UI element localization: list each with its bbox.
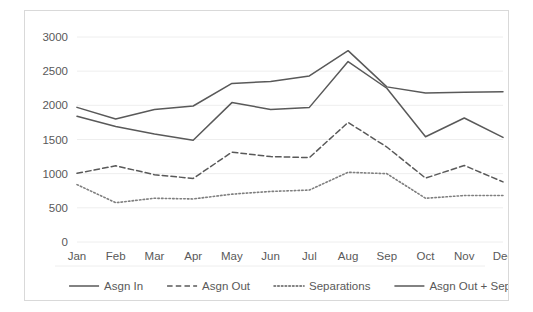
legend-item-label: Asgn Out bbox=[202, 280, 251, 292]
x-axis-tick-label: Jan bbox=[68, 250, 87, 262]
x-axis-tick-label: May bbox=[221, 250, 243, 262]
chart-container: 050010001500200025003000 JanFebMarAprMay… bbox=[24, 10, 509, 301]
line-chart: 050010001500200025003000 JanFebMarAprMay… bbox=[25, 11, 508, 300]
x-axis-tick-label: Sep bbox=[377, 250, 397, 262]
legend-item-label: Asgn In bbox=[104, 280, 143, 292]
x-axis-tick-label: Jun bbox=[261, 250, 280, 262]
y-axis-tick-labels: 050010001500200025003000 bbox=[42, 31, 68, 248]
legend-item-label: Asgn Out + Sep bbox=[429, 280, 508, 292]
x-axis-tick-label: Feb bbox=[106, 250, 126, 262]
x-axis-tick-label: Mar bbox=[145, 250, 165, 262]
y-axis-tick-label: 1000 bbox=[42, 168, 68, 180]
data-series-group bbox=[77, 51, 503, 203]
y-axis-tick-label: 2000 bbox=[42, 99, 68, 111]
y-axis-tick-label: 1500 bbox=[42, 134, 68, 146]
legend-item-label: Separations bbox=[309, 280, 371, 292]
y-axis-tick-label: 2500 bbox=[42, 65, 68, 77]
x-axis-tick-label: Nov bbox=[454, 250, 475, 262]
x-axis-tick-label: Jul bbox=[302, 250, 317, 262]
y-axis-tick-label: 0 bbox=[62, 236, 68, 248]
y-axis-tick-label: 3000 bbox=[42, 31, 68, 43]
x-axis-tick-label: Dec bbox=[493, 250, 508, 262]
x-axis-tick-labels: JanFebMarAprMayJunJulAugSepOctNovDec bbox=[68, 250, 508, 262]
y-axis-tick-label: 500 bbox=[49, 202, 68, 214]
series-line bbox=[77, 62, 503, 141]
series-line bbox=[77, 172, 503, 202]
gridlines bbox=[77, 37, 503, 242]
x-axis-tick-label: Oct bbox=[417, 250, 436, 262]
x-axis-tick-label: Apr bbox=[184, 250, 202, 262]
x-axis-tick-label: Aug bbox=[338, 250, 358, 262]
chart-legend: Asgn InAsgn OutSeparationsAsgn Out + Sep bbox=[69, 280, 508, 292]
